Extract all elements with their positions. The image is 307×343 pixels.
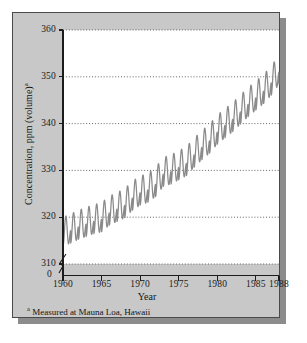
chart-panel: 310320330340350360 196019651970197519801… — [12, 12, 280, 318]
x-tick-label: 1960 — [53, 279, 73, 289]
x-tick-label: 1980 — [207, 279, 227, 289]
x-tick-label: 1975 — [169, 279, 189, 289]
x-axis-ticks: 1960196519701975198019851988 — [13, 13, 279, 317]
plot-wrapper: 310320330340350360 196019651970197519801… — [13, 13, 279, 317]
y-axis-title: Concentration, ppm (volume)a — [22, 44, 34, 244]
x-axis-title: Year — [13, 291, 281, 302]
x-tick-label: 1970 — [130, 279, 150, 289]
y-axis-title-superscript: a — [22, 83, 29, 86]
chart-footnote: a Measured at Mauna Loa, Hawaii — [27, 305, 150, 317]
x-tick-label: 1965 — [92, 279, 112, 289]
footnote-text: Measured at Mauna Loa, Hawaii — [30, 307, 150, 317]
figure-root: 310320330340350360 196019651970197519801… — [0, 0, 307, 343]
y-axis-title-text: Concentration, ppm (volume) — [23, 86, 34, 205]
y-axis-zero-label: 0 — [47, 269, 52, 279]
x-tick-label: 1988 — [269, 279, 289, 289]
x-tick-label: 1985 — [246, 279, 266, 289]
